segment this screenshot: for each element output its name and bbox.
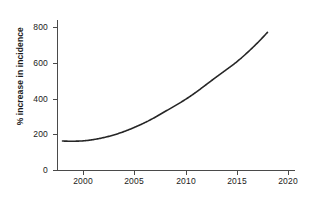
y-tick-label-600: 600 [8,59,48,68]
x-tick-label-2010: 2010 [166,177,206,186]
x-tick-mark-2015 [237,170,238,175]
x-tick-label-2015: 2015 [217,177,257,186]
x-tick-mark-2005 [134,170,135,175]
x-tick-mark-2010 [186,170,187,175]
chart-figure: % increase in incidence 800 600 400 200 … [0,0,327,199]
x-tick-mark-2020 [288,170,289,175]
y-tick-label-800: 800 [8,23,48,32]
x-tick-label-2020: 2020 [268,177,308,186]
y-axis-spine [57,20,58,171]
y-tick-label-400: 400 [8,95,48,104]
line-series-incidence [63,32,268,141]
x-tick-label-2000: 2000 [63,177,103,186]
x-axis-spine [57,170,295,171]
x-tick-mark-2000 [83,170,84,175]
y-tick-label-0: 0 [8,166,48,175]
y-tick-label-200: 200 [8,130,48,139]
x-tick-label-2005: 2005 [114,177,154,186]
